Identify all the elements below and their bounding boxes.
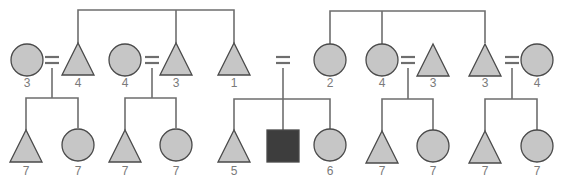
triangle-icon xyxy=(417,44,449,76)
female-circle-icon xyxy=(11,44,43,76)
individual-g1-10: 4 xyxy=(521,44,553,90)
individual-g2-1: 7 xyxy=(10,130,42,178)
individual-g2-4: 7 xyxy=(160,129,192,178)
individual-label: 7 xyxy=(379,164,386,178)
individual-label: 7 xyxy=(23,164,30,178)
individual-label: 5 xyxy=(231,164,238,178)
female-circle-icon xyxy=(109,44,141,76)
triangle-icon xyxy=(469,44,501,76)
affected-square-icon xyxy=(267,130,299,162)
individual-label: 6 xyxy=(327,164,334,178)
female-circle-icon xyxy=(314,44,346,76)
individual-label: 4 xyxy=(534,76,541,90)
individual-label: 3 xyxy=(430,76,437,90)
individual-g1-8: 3 xyxy=(417,44,449,90)
individual-g2-10: 7 xyxy=(469,131,501,178)
individual-label: 7 xyxy=(75,164,82,178)
individual-label: 4 xyxy=(379,76,386,90)
sibship-right xyxy=(330,11,485,44)
individual-g1-1: 3 xyxy=(11,44,43,90)
individual-label: 7 xyxy=(430,164,437,178)
triangle-icon xyxy=(469,131,501,163)
sibship-left xyxy=(78,10,234,43)
triangle-icon xyxy=(160,43,192,75)
individual-label: 3 xyxy=(173,76,180,90)
female-circle-icon xyxy=(62,129,94,161)
individual-label: 7 xyxy=(534,164,541,178)
individual-g1-5: 1 xyxy=(218,43,250,90)
individual-g2-11: 7 xyxy=(521,130,553,178)
individual-label: 4 xyxy=(122,76,129,90)
individual-label: 3 xyxy=(482,76,489,90)
individual-label: 2 xyxy=(327,76,334,90)
individual-g2-5: 5 xyxy=(218,130,250,178)
individual-label: 3 xyxy=(24,76,31,90)
individual-g2-8: 7 xyxy=(366,131,398,178)
female-circle-icon xyxy=(521,130,553,162)
triangle-icon xyxy=(109,130,141,162)
individual-g2-2: 7 xyxy=(62,129,94,178)
individual-label: 7 xyxy=(122,164,129,178)
female-circle-icon xyxy=(521,44,553,76)
individual-g1-9: 3 xyxy=(469,44,501,90)
triangle-icon xyxy=(10,130,42,162)
female-circle-icon xyxy=(160,129,192,161)
individual-g2-7: 6 xyxy=(314,129,346,178)
individual-label: 7 xyxy=(173,164,180,178)
pedigree-diagram: 3 4 4 3 1 2 4 3 xyxy=(0,0,562,185)
individual-g1-3: 4 xyxy=(109,44,141,90)
triangle-icon xyxy=(218,43,250,75)
pedigree-canvas: 3 4 4 3 1 2 4 3 xyxy=(0,0,562,185)
triangle-icon xyxy=(366,131,398,163)
female-circle-icon xyxy=(314,129,346,161)
female-circle-icon xyxy=(417,130,449,162)
individual-g1-7: 4 xyxy=(366,44,398,90)
triangle-icon xyxy=(218,130,250,162)
individual-g1-6: 2 xyxy=(314,44,346,90)
triangle-icon xyxy=(62,43,94,75)
individual-label: 1 xyxy=(231,76,238,90)
individual-g2-3: 7 xyxy=(109,130,141,178)
individual-g1-2: 4 xyxy=(62,43,94,90)
individual-label: 4 xyxy=(75,76,82,90)
individual-g1-4: 3 xyxy=(160,43,192,90)
female-circle-icon xyxy=(366,44,398,76)
individual-g2-9: 7 xyxy=(417,130,449,178)
individual-label: 7 xyxy=(482,164,489,178)
individual-g2-6 xyxy=(267,130,299,162)
